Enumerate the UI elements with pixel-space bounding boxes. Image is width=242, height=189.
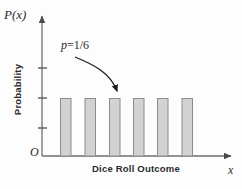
bar-series [61,99,193,157]
probability-annotation: p=1/6 [61,38,89,53]
x-axis-variable-label: x [228,163,233,178]
bar-2 [85,99,96,157]
bar-6 [182,99,193,157]
bar-5 [158,99,169,157]
origin-label: O [30,145,39,160]
x-axis-title: Dice Roll Outcome [66,163,206,174]
curved-annotation-arrow [75,57,117,91]
probability-distribution-figure: P(x) Probability O Dice Roll Outcome x p… [0,0,242,189]
annotation-value: 1/6 [74,38,89,52]
bar-4 [134,99,145,157]
chart-canvas [0,0,242,189]
y-axis-title: Probability [12,55,23,125]
bar-3 [110,99,121,157]
y-axis-variable-label: P(x) [4,7,26,23]
bar-1 [61,99,72,157]
annotation-equals: = [67,38,74,52]
